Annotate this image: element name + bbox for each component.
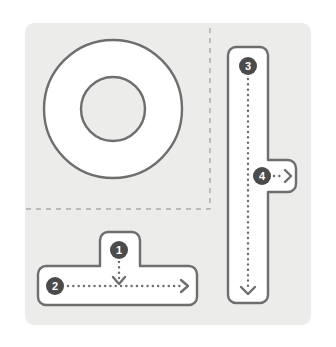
- washer-ring-shape: [44, 40, 182, 178]
- callout-4-label: 4: [259, 170, 266, 182]
- callout-2-label: 2: [52, 280, 58, 292]
- diagram-canvas: 1 2 3 4: [0, 0, 336, 347]
- callout-1-label: 1: [116, 244, 122, 256]
- washer-inner-circle: [81, 77, 145, 141]
- diagram-artwork: 1 2 3 4: [0, 0, 336, 347]
- callout-3-label: 3: [245, 60, 251, 72]
